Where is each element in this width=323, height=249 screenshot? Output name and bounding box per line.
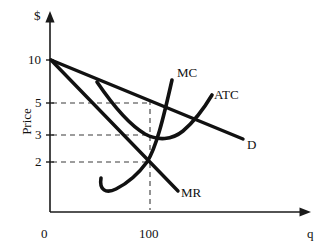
y-tick-label-5: 5 <box>35 96 42 109</box>
curve-label-d: D <box>247 138 256 151</box>
x-tick-label-0: 0 <box>41 227 48 240</box>
x-axis-title: q <box>307 227 314 240</box>
series-line-average-total-cost <box>97 82 212 139</box>
y-axis-title: Price <box>20 104 33 140</box>
y-tick-label-3: 3 <box>35 128 42 141</box>
y-tick-label-10: 10 <box>28 53 41 66</box>
y-tick-label-2: 2 <box>35 155 42 168</box>
series-line-marginal-revenue <box>51 60 178 191</box>
curve-label-atc: ATC <box>214 88 239 101</box>
graph-plot-area <box>0 0 323 249</box>
y-axis-unit-label: $ <box>34 9 41 22</box>
curve-label-mr: MR <box>181 186 201 199</box>
y-axis-arrow-icon <box>45 11 54 23</box>
monopoly-graph-figure: $ Price q 10 5 3 2 0 100 MC ATC D MR <box>0 0 323 249</box>
guide-lines-group <box>52 100 150 210</box>
curve-label-mc: MC <box>177 66 197 79</box>
x-tick-label-100: 100 <box>139 227 159 240</box>
x-axis-arrow-icon <box>300 207 312 216</box>
